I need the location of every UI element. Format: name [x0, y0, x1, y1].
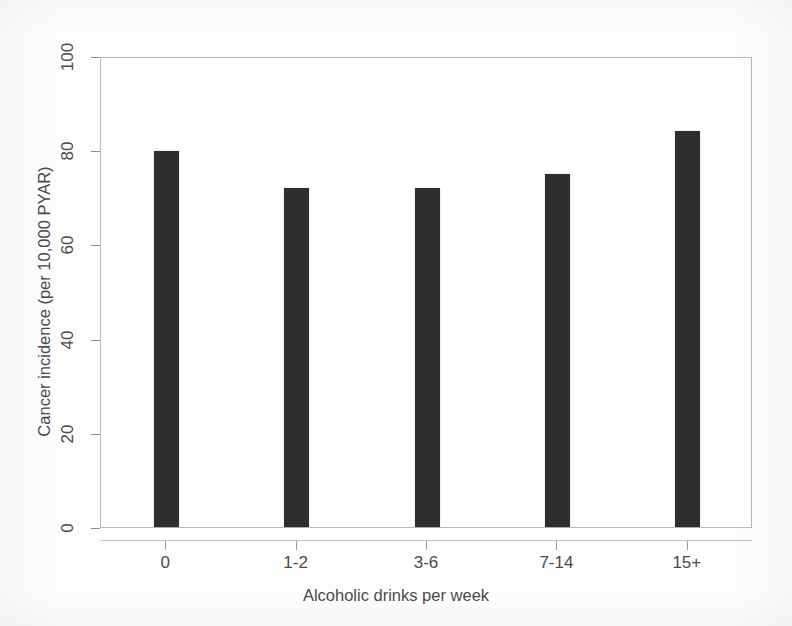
- y-tick-label-text: 40: [58, 320, 78, 360]
- y-tick-label: 0: [48, 518, 88, 538]
- x-tick-label: 3-6: [381, 553, 471, 573]
- x-tick-mark: [426, 541, 427, 550]
- y-tick-mark: [91, 57, 100, 58]
- x-axis-title: Alcoholic drinks per week: [0, 586, 792, 605]
- x-tick-mark: [165, 541, 166, 550]
- bar: [675, 131, 700, 527]
- y-tick-label-text: 100: [58, 37, 78, 77]
- y-tick-label: 60: [48, 235, 88, 255]
- y-tick-label: 80: [48, 141, 88, 161]
- bar: [284, 188, 309, 527]
- figure-canvas: Cancer incidence (per 10,000 PYAR) 02040…: [0, 0, 792, 626]
- x-tick-label: 1-2: [251, 553, 341, 573]
- y-tick-mark: [91, 245, 100, 246]
- y-tick-mark: [91, 340, 100, 341]
- plot-area: [100, 57, 752, 528]
- y-tick-label-text: 20: [58, 414, 78, 454]
- y-tick-mark: [91, 434, 100, 435]
- y-tick-label: 100: [48, 47, 88, 67]
- y-tick-label-text: 60: [58, 225, 78, 265]
- y-tick-label-text: 80: [58, 131, 78, 171]
- y-tick-mark: [91, 151, 100, 152]
- x-tick-mark: [296, 541, 297, 550]
- x-tick-label: 7-14: [511, 553, 601, 573]
- y-tick-label: 40: [48, 330, 88, 350]
- x-tick-label: 15+: [642, 553, 732, 573]
- y-tick-label: 20: [48, 424, 88, 444]
- bar: [415, 188, 440, 527]
- y-tick-label-text: 0: [58, 508, 78, 548]
- y-tick-mark: [91, 528, 100, 529]
- bar: [154, 151, 179, 527]
- x-tick-label: 0: [120, 553, 210, 573]
- x-tick-mark: [556, 541, 557, 550]
- bar: [545, 174, 570, 527]
- x-tick-mark: [687, 541, 688, 550]
- y-axis: 020406080100: [0, 0, 100, 626]
